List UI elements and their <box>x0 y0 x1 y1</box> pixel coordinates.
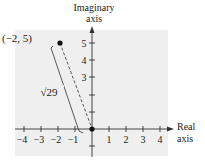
x-tick-label: −1 <box>68 134 79 145</box>
x-tick-label: 3 <box>141 134 146 145</box>
real-axis-label: Real <box>177 121 196 132</box>
point-neg2-5 <box>57 40 62 45</box>
imaginary-axis-arrow-icon <box>90 26 95 33</box>
x-tick-label: 4 <box>158 134 163 145</box>
complex-plane-diagram: −4 −3 −2 −1 1 2 3 4 5 4 3 Imaginary axis… <box>0 0 205 166</box>
real-axis-label: axis <box>177 133 193 144</box>
y-tick-label: 3 <box>82 72 87 83</box>
x-tick-label: −4 <box>17 134 28 145</box>
origin-point <box>89 126 94 131</box>
imaginary-axis-label: axis <box>86 13 102 24</box>
x-tick-label: 2 <box>124 134 129 145</box>
x-tick-label: −3 <box>34 134 45 145</box>
y-tick-label: 5 <box>82 38 87 49</box>
real-axis-arrow-icon <box>167 127 174 132</box>
imaginary-axis-label: Imaginary <box>73 2 114 13</box>
distance-label: √29 <box>40 86 58 98</box>
x-tick-label: −2 <box>51 134 62 145</box>
point-label: (−2, 5) <box>2 32 32 45</box>
y-tick-label: 4 <box>82 55 87 66</box>
x-tick-label: 1 <box>107 134 112 145</box>
